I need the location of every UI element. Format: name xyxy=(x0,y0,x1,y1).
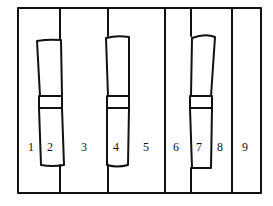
region-label-7: 7 xyxy=(196,140,202,154)
region-label-4: 4 xyxy=(113,140,119,154)
bar-3-top xyxy=(191,35,215,96)
bar-1-bottom xyxy=(39,108,64,166)
bar-3-bottom xyxy=(190,108,212,168)
bar-2-band xyxy=(107,96,129,108)
bar-1-band xyxy=(39,96,62,108)
region-label-3: 3 xyxy=(81,140,87,154)
bar-2-bottom xyxy=(107,108,129,167)
diagram-canvas: 1 2 3 4 5 6 7 8 9 xyxy=(0,0,273,206)
bar-1-top xyxy=(37,40,62,96)
region-label-1: 1 xyxy=(28,140,34,154)
bar-3-band xyxy=(190,96,212,108)
region-label-5: 5 xyxy=(143,140,149,154)
region-label-8: 8 xyxy=(217,140,223,154)
region-label-9: 9 xyxy=(242,140,248,154)
region-label-6: 6 xyxy=(173,140,179,154)
region-label-2: 2 xyxy=(47,140,53,154)
bar-2-top xyxy=(106,36,129,96)
